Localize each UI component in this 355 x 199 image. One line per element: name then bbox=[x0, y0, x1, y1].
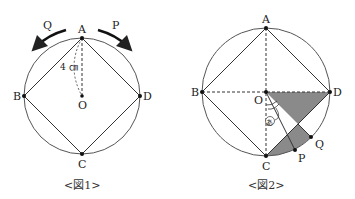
label-b-1: B bbox=[13, 90, 21, 103]
label-q-1: Q bbox=[43, 19, 52, 32]
label-p-1: P bbox=[112, 19, 120, 32]
label-a-2: A bbox=[261, 13, 271, 26]
point-c-2 bbox=[264, 154, 268, 158]
point-b bbox=[22, 94, 26, 98]
label-d-2: D bbox=[333, 86, 342, 99]
diagram-canvas: A B C D O P Q 4 ㎝ <図1> あ bbox=[0, 0, 355, 199]
label-p-2: P bbox=[298, 152, 306, 165]
shaded-triangle bbox=[266, 92, 330, 124]
label-o-1: O bbox=[78, 99, 87, 112]
point-d-2 bbox=[328, 90, 332, 94]
label-b-2: B bbox=[191, 86, 199, 99]
label-d-1: D bbox=[143, 90, 152, 103]
point-b-2 bbox=[200, 90, 204, 94]
point-c bbox=[80, 152, 84, 156]
label-o-2: O bbox=[254, 94, 263, 107]
arrow-q-counterclockwise-icon bbox=[37, 30, 66, 46]
point-a bbox=[80, 36, 84, 40]
point-o bbox=[80, 94, 84, 98]
angle-label: あ bbox=[266, 119, 273, 127]
point-p-2 bbox=[293, 148, 297, 152]
label-c-2: C bbox=[262, 160, 270, 173]
radius-length-label: 4 ㎝ bbox=[60, 62, 78, 72]
point-q-2 bbox=[309, 135, 313, 139]
point-d bbox=[138, 94, 142, 98]
caption-figure-1: <図1> bbox=[64, 179, 100, 192]
point-o-2 bbox=[264, 90, 268, 94]
figure-2: あ A B C D O P Q <図2> bbox=[191, 13, 342, 192]
arrow-p-clockwise-icon bbox=[98, 30, 127, 46]
caption-figure-2: <図2> bbox=[248, 179, 284, 192]
label-q-2: Q bbox=[315, 138, 324, 151]
label-c-1: C bbox=[78, 158, 86, 171]
label-a-1: A bbox=[77, 23, 87, 36]
figure-1: A B C D O P Q 4 ㎝ <図1> bbox=[13, 19, 152, 192]
point-a-2 bbox=[264, 26, 268, 30]
